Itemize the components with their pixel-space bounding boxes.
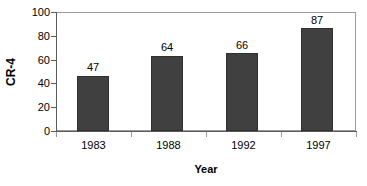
x-tick-mark [281,132,282,137]
x-tick-mark [356,132,357,137]
bar-value-label: 64 [151,42,183,53]
bar-value-label: 66 [226,40,258,51]
y-tick-label: 40 [18,78,50,89]
y-tick-label: 80 [18,30,50,41]
y-tick-label: 0 [18,126,50,137]
y-tick-label: 20 [18,102,50,113]
bar-1988[interactable] [151,56,183,132]
x-tick-label-1997: 1997 [281,139,356,151]
x-tick-label-1988: 1988 [131,139,206,151]
bar-1983[interactable] [77,76,109,132]
y-axis-title-label: CR-4 [4,57,18,85]
x-tick-mark [131,132,132,137]
x-tick-label-1992: 1992 [206,139,281,151]
bar-value-label: 87 [301,15,333,26]
bar-value-label: 47 [77,62,109,73]
x-tick-mark [56,132,57,137]
x-tick-label-1983: 1983 [56,139,131,151]
bars-layer: 47 64 66 87 [57,13,355,131]
bar-1992[interactable] [226,53,258,131]
x-axis-tick-labels: 1983 1988 1992 1997 [56,139,356,155]
y-axis-tick-labels: 0 20 40 60 80 100 [18,12,50,131]
x-axis-title: Year [56,163,356,175]
y-tick-label: 60 [18,54,50,65]
bar-1997[interactable] [301,28,333,131]
x-tick-mark [206,132,207,137]
y-tick-label: 100 [18,7,50,18]
bar-chart-figure: CR-4 0 20 40 60 80 100 47 64 66 87 1983 … [0,0,367,186]
